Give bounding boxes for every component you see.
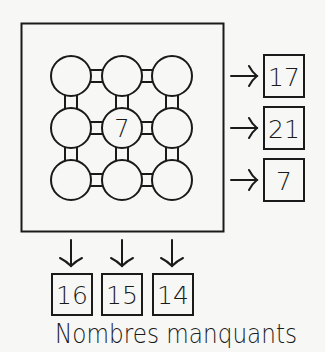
arrow-right-icon bbox=[231, 118, 257, 138]
arrow-down-icon bbox=[60, 240, 82, 266]
row-sum-3: 7 bbox=[276, 167, 292, 196]
puzzle-diagram: 7 17 21 7 bbox=[0, 0, 325, 352]
grid-cell-r2c3[interactable] bbox=[152, 108, 192, 148]
grid-cell-r3c3[interactable] bbox=[152, 160, 192, 200]
grid-cell-r1c3[interactable] bbox=[152, 56, 192, 96]
grid-value-r2c2: 7 bbox=[114, 115, 129, 143]
arrow-right-icon bbox=[231, 170, 257, 190]
grid-cell-r3c2[interactable] bbox=[102, 160, 142, 200]
arrow-down-icon bbox=[161, 240, 183, 266]
grid-cell-r2c1[interactable] bbox=[51, 108, 91, 148]
arrow-down-icon bbox=[111, 240, 133, 266]
column-sum-3: 14 bbox=[157, 281, 189, 310]
grid-cell-r1c1[interactable] bbox=[51, 56, 91, 96]
arrow-right-icon bbox=[231, 66, 257, 86]
caption: Nombres manquants bbox=[55, 319, 297, 349]
row-sum-2: 21 bbox=[268, 115, 300, 144]
row-sum-1: 17 bbox=[268, 63, 300, 92]
column-sum-2: 15 bbox=[106, 281, 138, 310]
grid-cell-r1c2[interactable] bbox=[102, 56, 142, 96]
grid-cell-r3c1[interactable] bbox=[51, 160, 91, 200]
column-sum-1: 16 bbox=[56, 281, 88, 310]
